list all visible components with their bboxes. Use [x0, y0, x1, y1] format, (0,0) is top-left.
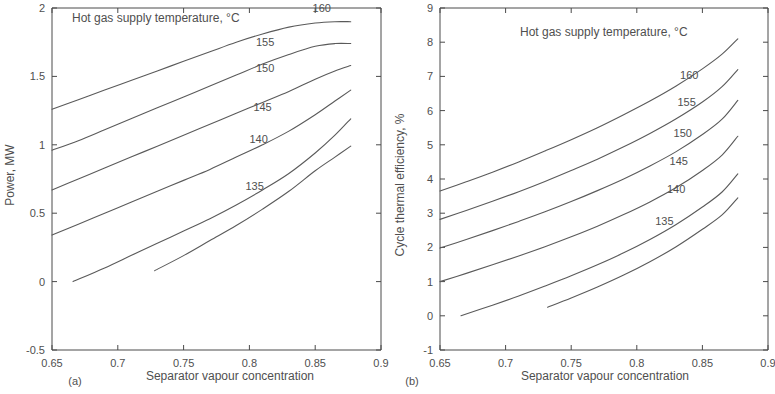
curve-label-135: 135	[655, 215, 673, 227]
x-axis-tick-label: 0.65	[429, 357, 450, 369]
x-axis-tick-label: 0.9	[760, 357, 775, 369]
data-curve-135	[548, 198, 738, 307]
y-axis-tick-label: 6	[427, 105, 433, 117]
x-axis-tick-label: 0.7	[110, 357, 125, 369]
data-curve-160	[52, 22, 351, 110]
y-axis-tick-label: 0.5	[30, 207, 45, 219]
y-axis-tick-label: 3	[427, 207, 433, 219]
y-axis-label: Power, MW	[3, 144, 17, 206]
x-axis-tick-label: 0.75	[560, 357, 581, 369]
y-axis-tick-label: 1	[427, 276, 433, 288]
curve-label-150: 150	[674, 127, 692, 139]
y-axis-tick-label: 0	[427, 310, 433, 322]
data-curve-150	[52, 65, 351, 189]
x-axis-label: Separator vapour concentration	[521, 369, 689, 383]
y-axis-tick-label: 9	[427, 2, 433, 14]
y-axis-tick-label: 2	[427, 241, 433, 253]
data-curve-150	[440, 100, 738, 248]
y-axis-tick-label: 7	[427, 70, 433, 82]
y-axis-tick-label: 2	[39, 2, 45, 14]
data-curve-140	[73, 119, 351, 282]
power-chart: -0.500.511.520.650.70.750.80.850.9160155…	[0, 0, 390, 394]
x-axis-tick-label: 0.8	[242, 357, 257, 369]
curve-label-145: 145	[253, 101, 271, 113]
curve-label-140: 140	[249, 133, 267, 145]
curve-label-140: 140	[667, 183, 685, 195]
chart-panel-a: -0.500.511.520.650.70.750.80.850.9160155…	[0, 0, 390, 394]
data-curve-140	[461, 174, 738, 316]
legend-title: Hot gas supply temperature, °C	[72, 11, 240, 25]
curve-label-160: 160	[313, 2, 331, 14]
efficiency-chart: -101234567890.650.70.750.80.850.91601551…	[390, 0, 775, 394]
x-axis-tick-label: 0.85	[304, 357, 325, 369]
data-curve-145	[440, 136, 738, 281]
curve-label-155: 155	[677, 96, 695, 108]
y-axis-tick-label: 0	[39, 276, 45, 288]
x-axis-tick-label: 0.7	[498, 357, 513, 369]
data-curve-155	[52, 43, 351, 150]
x-axis-tick-label: 0.8	[629, 357, 644, 369]
curve-label-145: 145	[670, 155, 688, 167]
figure-container: -0.500.511.520.650.70.750.80.850.9160155…	[0, 0, 775, 394]
x-axis-tick-label: 0.9	[373, 357, 388, 369]
plot-frame	[440, 8, 768, 350]
data-curve-135	[155, 146, 351, 270]
x-axis-tick-label: 0.85	[692, 357, 713, 369]
y-axis-tick-label: 8	[427, 36, 433, 48]
y-axis-tick-label: 4	[427, 173, 433, 185]
x-axis-label: Separator vapour concentration	[146, 369, 314, 383]
curve-label-135: 135	[245, 180, 263, 192]
x-axis-tick-label: 0.75	[173, 357, 194, 369]
y-axis-tick-label: 5	[427, 139, 433, 151]
y-axis-tick-label: -1	[423, 344, 433, 356]
data-curve-155	[440, 70, 738, 220]
panel-caption: (a)	[68, 375, 81, 387]
y-axis-tick-label: 1.5	[30, 70, 45, 82]
curve-label-155: 155	[256, 36, 274, 48]
y-axis-tick-label: -0.5	[26, 344, 45, 356]
data-curve-145	[52, 90, 351, 235]
curve-label-150: 150	[256, 62, 274, 74]
panel-caption: (b)	[405, 375, 418, 387]
chart-panel-b: -101234567890.650.70.750.80.850.91601551…	[390, 0, 775, 394]
curve-label-160: 160	[680, 69, 698, 81]
y-axis-tick-label: 1	[39, 139, 45, 151]
legend-title: Hot gas supply temperature, °C	[520, 25, 688, 39]
x-axis-tick-label: 0.65	[41, 357, 62, 369]
y-axis-label: Cycle thermal efficiency, %	[393, 113, 407, 256]
data-curve-160	[440, 39, 738, 191]
plot-frame	[52, 8, 381, 350]
